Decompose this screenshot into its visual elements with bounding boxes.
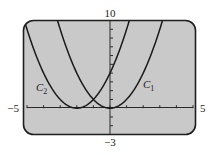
y-min-label: −3 [104,136,116,148]
y-max-label: 10 [105,7,117,19]
x-min-label: −5 [7,102,19,114]
x-max-label: 5 [200,102,206,114]
curve-label-c2-sub: 2 [43,87,47,96]
graph-figure: 10 −3 −5 5 C2 C1 [0,0,216,155]
curve-label-c1-sub: 1 [150,84,154,93]
